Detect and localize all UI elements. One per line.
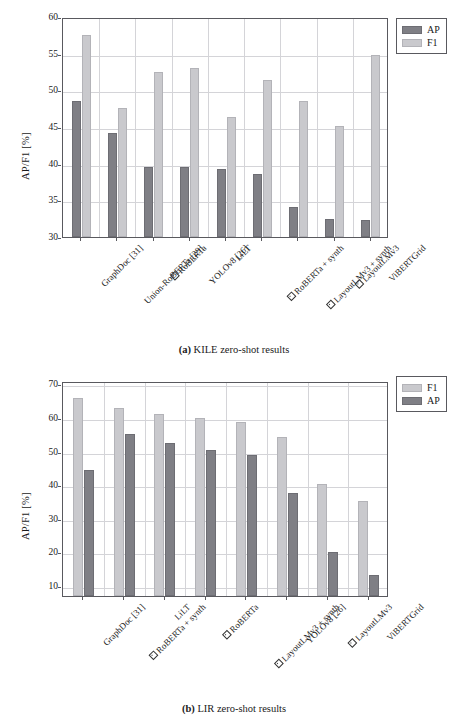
y-axis-label-b: AP/F1 [%] <box>20 492 31 540</box>
x-tick-mark <box>368 597 369 600</box>
bar-f1 <box>190 68 199 237</box>
y-tick-mark <box>58 55 61 56</box>
gridline-vertical <box>208 19 209 237</box>
bar-f1 <box>317 484 327 596</box>
gridline <box>63 588 387 589</box>
gridline-vertical <box>348 383 349 596</box>
bar-ap <box>325 219 334 237</box>
bar-ap <box>180 167 189 237</box>
x-tick-mark <box>327 597 328 600</box>
bar-ap <box>165 443 175 596</box>
y-tick-label: 10 <box>49 582 59 592</box>
y-tick-label: 40 <box>49 481 59 491</box>
y-tick-mark <box>58 553 61 554</box>
y-tick-mark <box>58 385 61 386</box>
y-tick-mark <box>58 419 61 420</box>
bar-f1 <box>118 108 127 237</box>
caption-text-b: LIR zero-shot results <box>197 703 286 714</box>
legend-item-ap: AP <box>402 394 440 407</box>
bar-ap <box>84 470 94 596</box>
bar-ap <box>125 434 135 596</box>
gridline-vertical <box>353 19 354 237</box>
x-tick-mark <box>225 238 226 241</box>
bar-f1 <box>236 422 246 596</box>
bar-ap <box>72 101 81 237</box>
y-tick-mark <box>58 91 61 92</box>
gridline <box>63 92 387 93</box>
y-tick-label: 35 <box>49 197 59 207</box>
gridline-vertical <box>267 383 268 596</box>
x-tick-mark <box>82 597 83 600</box>
x-tick-mark <box>189 238 190 241</box>
legend-swatch-ap-icon <box>402 26 422 34</box>
y-tick-label: 50 <box>49 87 59 97</box>
gridline-vertical <box>172 19 173 237</box>
y-tick-label: 55 <box>49 50 59 60</box>
y-tick-mark <box>58 201 61 202</box>
bar-f1 <box>263 80 272 237</box>
figure-kile-zero-shot: 30354045505560 AP/F1 [%] AP F1 (a) KILE … <box>0 0 468 360</box>
legend-label-f1: F1 <box>427 383 438 393</box>
bar-ap <box>144 167 153 237</box>
plot-area-a <box>62 18 388 238</box>
gridline-vertical <box>99 19 100 237</box>
bar-f1 <box>277 437 287 596</box>
gridline <box>63 420 387 421</box>
gridline <box>63 454 387 455</box>
gridline <box>63 386 387 387</box>
y-axis-a: 30354045505560 <box>36 18 58 238</box>
bar-ap <box>361 220 370 237</box>
gridline-vertical <box>280 19 281 237</box>
plot-area-b <box>62 382 388 597</box>
gridline-vertical <box>244 19 245 237</box>
bar-ap <box>253 174 262 237</box>
y-axis-label-a: AP/F1 [%] <box>20 132 31 180</box>
gridline <box>63 56 387 57</box>
legend-label-ap: AP <box>427 396 440 406</box>
x-tick-mark <box>286 597 287 600</box>
bar-f1 <box>154 414 164 596</box>
gridline <box>63 554 387 555</box>
y-axis-b: 10203040506070 <box>36 382 58 597</box>
y-tick-label: 60 <box>49 13 59 23</box>
y-tick-label: 30 <box>49 233 59 243</box>
bar-ap <box>288 493 298 596</box>
legend-swatch-f1-icon <box>402 384 422 392</box>
x-tick-mark <box>123 597 124 600</box>
y-tick-label: 45 <box>49 123 59 133</box>
caption-text-a: KILE zero-shot results <box>194 344 290 355</box>
gridline-vertical <box>317 19 318 237</box>
gridline <box>63 521 387 522</box>
gridline-vertical <box>135 19 136 237</box>
x-tick-mark <box>261 238 262 241</box>
bar-ap <box>217 169 226 237</box>
legend-item-f1: F1 <box>402 381 440 394</box>
legend-b: F1 AP <box>396 376 447 412</box>
y-tick-label: 40 <box>49 160 59 170</box>
bar-ap <box>247 455 257 596</box>
y-tick-label: 60 <box>49 414 59 424</box>
gridline-vertical <box>104 383 105 596</box>
gridline-vertical <box>308 383 309 596</box>
legend-swatch-f1-icon <box>402 39 422 47</box>
bar-f1 <box>227 117 236 237</box>
y-tick-mark <box>58 18 61 19</box>
bar-f1 <box>299 101 308 237</box>
x-tick-mark <box>116 238 117 241</box>
x-tick-mark <box>370 238 371 241</box>
y-tick-label: 20 <box>49 549 59 559</box>
y-tick-mark <box>58 165 61 166</box>
figure-caption-b: (b) LIR zero-shot results <box>0 703 468 715</box>
bar-f1 <box>358 501 368 596</box>
bar-ap <box>369 575 379 596</box>
bar-f1 <box>195 418 205 596</box>
bar-f1 <box>371 55 380 237</box>
x-tick-mark <box>245 597 246 600</box>
bar-ap <box>289 207 298 237</box>
gridline <box>63 487 387 488</box>
bar-f1 <box>73 398 83 596</box>
bar-f1 <box>114 408 124 596</box>
caption-tag-a: (a) <box>179 344 191 355</box>
y-tick-mark <box>58 520 61 521</box>
y-tick-label: 70 <box>49 381 59 391</box>
